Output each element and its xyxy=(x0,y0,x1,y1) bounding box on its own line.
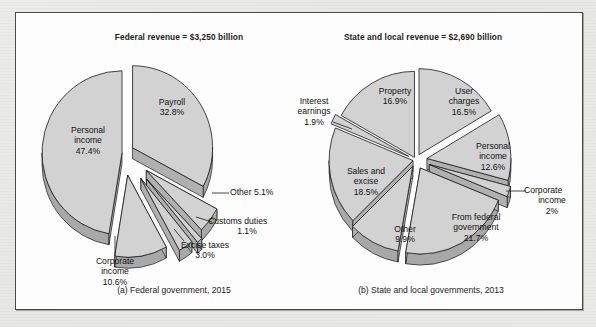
chart-a-caption: (a) Federal government, 2015 xyxy=(64,285,284,295)
label-customs-duties: Customs duties 1.1% xyxy=(208,216,300,237)
label-corporate-income-federal: Corporate income 10.6% xyxy=(76,256,154,287)
figure-frame: Federal revenue = $3,250 billion State a… xyxy=(15,12,583,310)
label-sales-and-excise: Sales and excise 18.5% xyxy=(334,166,398,197)
label-user-charges: User charges 16.5% xyxy=(436,86,492,117)
label-other-federal: Other 5.1% xyxy=(230,187,273,197)
label-payroll: Payroll 32.8% xyxy=(144,97,200,118)
label-personal-income-federal: Personal income 47.4% xyxy=(56,125,120,156)
label-other-state: Other 9.9% xyxy=(383,224,427,245)
label-personal-income-state: Personal income 12.6% xyxy=(462,141,524,172)
label-property: Property 16.9% xyxy=(365,86,425,107)
label-corporate-income-state: Corporate income 2% xyxy=(524,185,586,216)
chart-b-caption: (b) State and local governments, 2013 xyxy=(306,285,556,295)
label-from-federal-government: From federal government 21.7% xyxy=(437,212,515,243)
label-interest-earnings: Interest earnings 1.9% xyxy=(283,96,345,127)
label-excise-taxes: Excise taxes 3.0% xyxy=(166,240,244,261)
